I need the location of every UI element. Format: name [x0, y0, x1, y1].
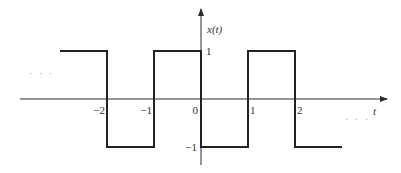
right-continuation-dots: · · ·	[345, 114, 370, 125]
left-continuation-dots: · · ·	[29, 68, 54, 79]
x-tick-label: 0	[193, 104, 199, 116]
x-tick-label: 1	[250, 104, 256, 116]
x-axis-label: t	[373, 105, 377, 117]
x-tick-label: −1	[140, 104, 152, 116]
y-axis-label: x(t)	[206, 23, 223, 36]
square-wave-chart: −2−10121−1 x(t) t · · · · · ·	[0, 0, 401, 173]
y-tick-label: 1	[206, 45, 212, 57]
y-tick-label: −1	[185, 141, 197, 153]
x-tick-label: −2	[93, 104, 105, 116]
x-tick-label: 2	[297, 104, 303, 116]
